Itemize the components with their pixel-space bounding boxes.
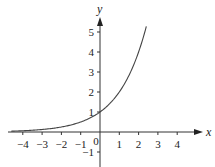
x-tick-label: 0 xyxy=(93,135,99,147)
y-tick-label: 5 xyxy=(89,26,95,38)
exponential-curve xyxy=(11,26,146,131)
y-tick-label: 1 xyxy=(89,106,95,118)
y-tick-label: 3 xyxy=(89,66,95,78)
x-tick-label: −2 xyxy=(56,138,68,150)
y-tick-label: −1 xyxy=(82,146,94,158)
x-tick-label: 4 xyxy=(174,138,180,150)
x-tick-label: 2 xyxy=(136,138,142,150)
x-tick-label: −4 xyxy=(17,138,29,150)
x-axis-arrow-icon xyxy=(194,129,203,135)
curve xyxy=(11,26,146,131)
exponential-chart: −4−3−2−101234−112345xy xyxy=(0,0,215,167)
y-tick-label: 2 xyxy=(89,86,95,98)
y-axis-label: y xyxy=(96,2,103,16)
y-axis-arrow-icon xyxy=(97,17,103,26)
y-tick-label: 4 xyxy=(89,46,95,58)
labels: −4−3−2−101234−112345xy xyxy=(17,2,212,158)
x-tick-label: −3 xyxy=(36,138,48,150)
x-axis-label: x xyxy=(205,125,212,139)
x-tick-label: 3 xyxy=(155,138,161,150)
x-tick-label: 1 xyxy=(117,138,123,150)
